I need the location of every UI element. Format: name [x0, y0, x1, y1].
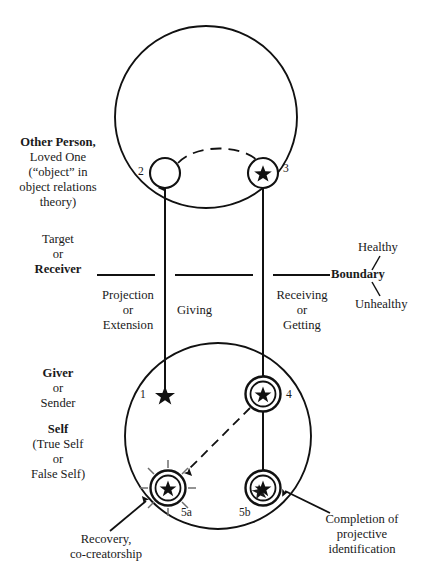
recovery-line1: Recovery,: [38, 532, 174, 547]
node-label-5a: 5a: [181, 506, 192, 519]
giver-line2: or: [0, 381, 116, 396]
receiving-line1: Receiving: [266, 288, 338, 303]
node-label-3: 3: [283, 162, 289, 175]
receiving-label: Receiving or Getting: [266, 288, 338, 333]
other-person-label: Other Person, Loved One (“object” in obj…: [0, 135, 116, 211]
unhealthy-label: Unhealthy: [355, 297, 407, 312]
node-4[interactable]: [246, 377, 281, 412]
self-line4: False Self): [0, 467, 116, 482]
dashed-arc-2-to-3: [178, 148, 258, 163]
target-receiver-label: Target or Receiver: [0, 232, 116, 277]
completion-line1: Completion of: [296, 512, 428, 527]
completion-line3: identification: [296, 542, 428, 557]
completion-line2: projective: [296, 527, 428, 542]
diagram-canvas: 2 3 1 4 5a 5b Other Person, Loved One (“…: [0, 0, 437, 582]
recovery-label: Recovery, co-creatorship: [38, 532, 174, 562]
projection-line2: or: [92, 303, 164, 318]
other-person-line4: object relations: [0, 180, 116, 195]
self-line1: Self: [0, 422, 116, 437]
node-1[interactable]: [155, 386, 175, 405]
other-person-line1: Other Person,: [0, 135, 116, 150]
self-line2: (True Self: [0, 437, 116, 452]
giver-sender-label: Giver or Sender: [0, 366, 116, 411]
target-line1: Target: [0, 232, 116, 247]
healthy-label: Healthy: [358, 240, 398, 255]
other-person-line3: (“object” in: [0, 165, 116, 180]
self-label: Self (True Self or False Self): [0, 422, 116, 482]
diagram-graphics: [0, 0, 437, 582]
other-person-line2: Loved One: [0, 150, 116, 165]
projection-label: Projection or Extension: [92, 288, 164, 333]
completion-label: Completion of projective identification: [296, 512, 428, 557]
recovery-pointer: [110, 501, 146, 531]
node-label-2: 2: [138, 165, 144, 178]
self-circle: [125, 343, 311, 529]
other-person-line5: theory): [0, 195, 116, 210]
target-line3: Receiver: [0, 262, 116, 277]
node-label-4: 4: [286, 388, 292, 401]
receiving-line3: Getting: [266, 318, 338, 333]
giving-label: Giving: [177, 303, 212, 318]
unhealthy-tick: [372, 282, 380, 296]
node-3[interactable]: [248, 158, 278, 188]
self-line3: or: [0, 452, 116, 467]
node-label-1: 1: [140, 388, 146, 401]
node-2[interactable]: [150, 158, 180, 188]
projection-line1: Projection: [92, 288, 164, 303]
node-label-5b: 5b: [239, 506, 251, 519]
completion-pointer: [285, 491, 330, 513]
recovery-line2: co-creatorship: [38, 547, 174, 562]
giver-line3: Sender: [0, 396, 116, 411]
boundary-label: Boundary: [331, 267, 385, 282]
target-line2: or: [0, 247, 116, 262]
projection-line3: Extension: [92, 318, 164, 333]
giver-line1: Giver: [0, 366, 116, 381]
node-5b[interactable]: [246, 471, 281, 506]
receiving-line2: or: [266, 303, 338, 318]
dashed-arrow-4-to-5a: [187, 408, 250, 471]
